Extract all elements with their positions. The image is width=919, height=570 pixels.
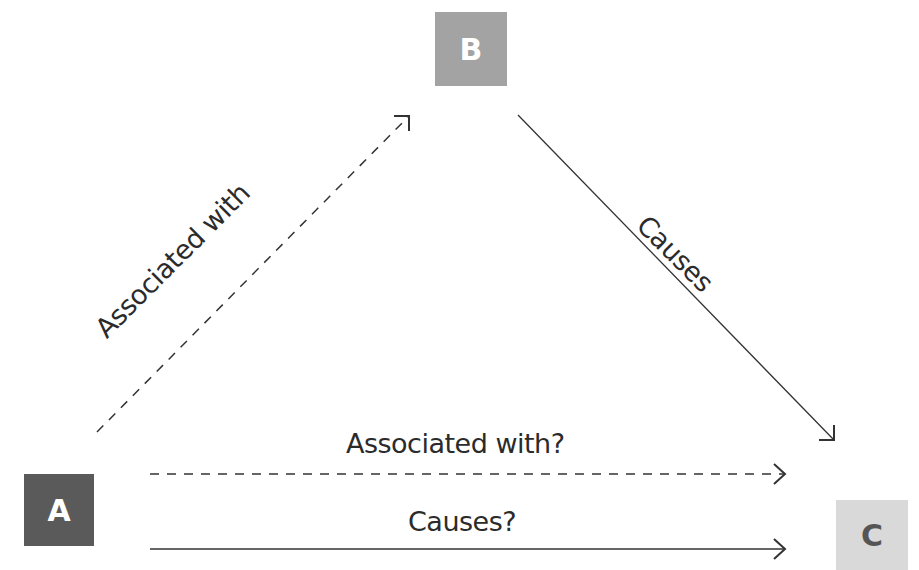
node-c: C [836, 500, 908, 570]
edge-a-c-associated [150, 464, 785, 484]
edge-label-a-c-associated: Associated with? [346, 428, 565, 459]
edge-label-a-c-causes: Causes? [408, 506, 516, 537]
node-c-label: C [861, 518, 883, 553]
node-b: B [435, 12, 507, 86]
edge-b-c [518, 115, 834, 440]
node-b-label: B [460, 32, 483, 67]
edge-a-c-causes [150, 539, 785, 559]
node-a: A [24, 474, 94, 546]
node-a-label: A [47, 493, 70, 528]
